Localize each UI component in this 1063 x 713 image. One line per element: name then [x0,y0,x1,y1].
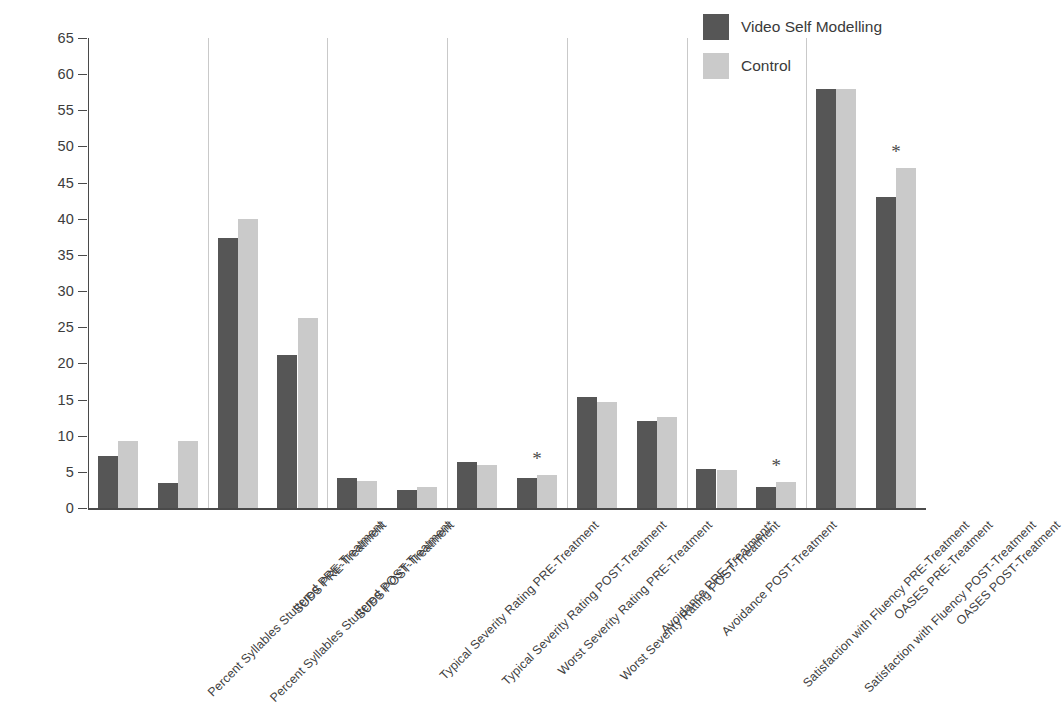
legend-item-video-self-modelling: Video Self Modelling [703,14,882,40]
y-axis-tick-label: 50 [57,138,74,154]
y-axis-tick-label: 45 [57,175,74,191]
group-separator-line [327,38,328,508]
bar-control [836,89,856,508]
bar-video-self-modelling [756,487,776,508]
legend-swatch-icon-video-self-modelling [703,14,729,40]
y-axis-tick-label: 10 [57,428,74,444]
bar-control [896,168,916,508]
bar-control [357,481,377,508]
x-axis-line [88,508,926,510]
y-axis-tick-mark [78,327,87,328]
y-axis-tick-mark [78,436,87,437]
x-axis-labels: Percent Syllables Stuttered PRE-Treatmen… [88,512,926,692]
bar-control [477,465,497,508]
y-axis-tick-label: 20 [57,355,74,371]
y-axis-tick-label: 65 [57,30,74,46]
bar-control [178,441,198,508]
y-axis-tick-mark [78,146,87,147]
significance-asterisk: * [891,142,901,161]
group-separator-line [208,38,209,508]
bar-video-self-modelling [696,469,716,508]
bar-control [118,441,138,508]
bar-video-self-modelling [397,490,417,508]
bar-video-self-modelling [277,355,297,508]
group-separator-line [567,38,568,508]
bar-control [417,487,437,508]
bar-control [597,402,617,508]
bar-control [238,219,258,508]
y-axis-tick-mark [78,219,87,220]
group-separator-line [806,38,807,508]
significance-asterisk: * [532,449,542,468]
y-axis-tick-mark [78,508,87,509]
x-axis-tick-label: Avoidance PRE-Treatment* [658,518,777,637]
bar-video-self-modelling [457,462,477,508]
group-separator-line [687,38,688,508]
y-axis-tick-label: 40 [57,211,74,227]
bar-video-self-modelling [517,478,537,508]
bar-control [717,470,737,508]
bar-video-self-modelling [337,478,357,508]
y-axis-tick-mark [78,74,87,75]
y-axis-tick-mark [78,363,87,364]
y-axis-tick-label: 35 [57,247,74,263]
y-axis-tick-mark [78,255,87,256]
bar-control [657,417,677,508]
bar-control [537,475,557,508]
significance-asterisk: * [772,456,782,475]
y-axis-tick-label: 5 [66,464,74,480]
y-axis-tick-label: 60 [57,66,74,82]
plot-area: 05101520253035404550556065*** [88,38,926,508]
legend-label-video-self-modelling: Video Self Modelling [741,18,882,36]
y-axis-tick-mark [78,291,87,292]
bar-video-self-modelling [98,456,118,508]
y-axis-tick-mark [78,472,87,473]
bar-video-self-modelling [637,421,657,508]
bar-video-self-modelling [158,483,178,508]
bar-control [776,482,796,508]
y-axis-tick-label: 25 [57,319,74,335]
y-axis-tick-mark [78,110,87,111]
bar-video-self-modelling [876,197,896,508]
y-axis-tick-label: 0 [66,500,74,516]
y-axis-tick-label: 15 [57,392,74,408]
group-separator-line [447,38,448,508]
bar-control [298,318,318,508]
y-axis-tick-mark [78,183,87,184]
y-axis-tick-mark [78,38,87,39]
y-axis-tick-label: 55 [57,102,74,118]
bar-video-self-modelling [577,397,597,508]
x-axis-tick-label: Avoidance POST-Treatment [719,518,840,639]
bar-video-self-modelling [816,89,836,508]
y-axis-tick-mark [78,400,87,401]
y-axis-tick-label: 30 [57,283,74,299]
bar-video-self-modelling [218,238,238,508]
